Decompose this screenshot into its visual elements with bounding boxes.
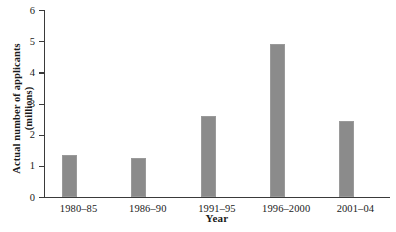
y-axis-tick-mark: 0 [39, 197, 44, 198]
bar [270, 44, 285, 197]
bar-chart: Actual number of applicants (millions) 0… [0, 0, 396, 232]
y-axis-title-line-1: Actual number of applicants [11, 14, 23, 204]
bar [62, 155, 77, 197]
y-axis-tick-label: 5 [30, 37, 35, 48]
x-axis-line [44, 197, 390, 198]
y-axis-tick-label: 6 [30, 5, 35, 16]
bar [201, 116, 216, 197]
bar [131, 158, 146, 197]
y-axis-tick-label: 3 [30, 99, 35, 110]
x-axis-title: Year [44, 212, 390, 224]
bars-layer [44, 10, 390, 197]
y-axis-tick-label: 1 [30, 161, 35, 172]
y-axis-tick-label: 0 [30, 192, 35, 203]
plot-area: 0123456 1980–851986–901991–951996–200020… [44, 10, 390, 197]
y-axis-tick-label: 4 [30, 68, 35, 79]
y-axis-tick-label: 2 [30, 130, 35, 141]
bar [339, 121, 354, 197]
